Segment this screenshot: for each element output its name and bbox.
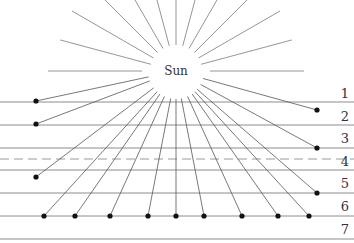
sun-ray: [201, 40, 292, 64]
sun-beam: [36, 88, 154, 177]
sun-beam: [181, 98, 204, 216]
sun-beam: [188, 96, 242, 216]
point-marker: [41, 213, 46, 218]
sun-upper-rays: [48, 0, 304, 71]
point-marker: [33, 174, 38, 179]
point-marker: [275, 213, 280, 218]
point-marker: [107, 213, 112, 218]
layer-label: 1: [341, 86, 349, 101]
point-marker: [173, 213, 178, 218]
layer-label: 6: [341, 199, 349, 214]
sun-beam: [192, 94, 278, 216]
point-marker: [306, 213, 311, 218]
sun-ray: [157, 0, 169, 46]
sun-beam: [195, 92, 309, 216]
sun-rays-diagram: Sun 1234567: [0, 0, 354, 243]
sun-beam: [203, 78, 317, 110]
layer-label: 3: [341, 131, 349, 146]
sun-beams-to-points: [36, 77, 317, 216]
point-marker: [145, 213, 150, 218]
layer-label: 5: [341, 176, 349, 191]
point-marker: [201, 213, 206, 218]
point-marker: [314, 107, 319, 112]
layer-labels: 1234567: [341, 86, 349, 237]
sun-ray: [183, 0, 195, 46]
sun-beam: [36, 77, 149, 101]
sun-beam: [44, 92, 157, 216]
point-marker: [239, 213, 244, 218]
layer-boundary-lines: [0, 102, 354, 239]
sun-ray: [199, 11, 280, 58]
sun-label: Sun: [164, 64, 188, 78]
point-marker: [33, 121, 38, 126]
point-marker: [33, 98, 38, 103]
point-marker: [314, 190, 319, 195]
layer-label: 4: [341, 154, 349, 169]
sun-ray: [60, 40, 151, 64]
point-marker: [314, 145, 319, 150]
sun-beam: [75, 94, 160, 216]
sun-beam: [148, 98, 171, 216]
layer-label: 7: [341, 222, 349, 237]
layer-label: 2: [341, 109, 349, 124]
point-marker: [72, 213, 77, 218]
sun-ray: [72, 11, 153, 58]
